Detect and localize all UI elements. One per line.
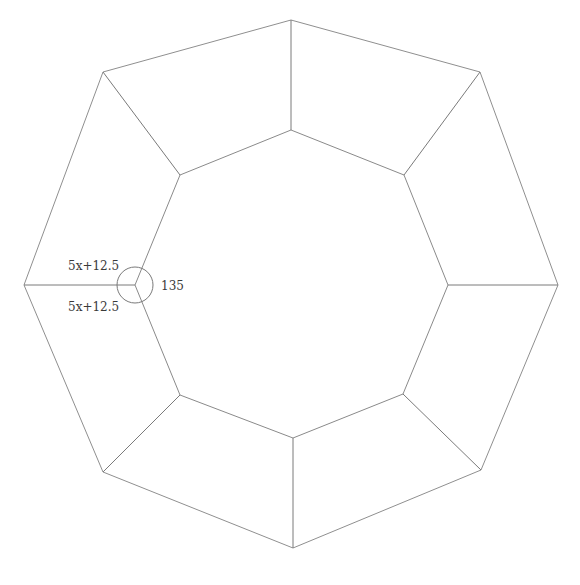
- spoke-line: [403, 394, 481, 470]
- lower-edge-label: 5x+12.5: [68, 300, 119, 314]
- upper-edge-label: 5x+12.5: [68, 259, 119, 273]
- octagon-frame-diagram: 5x+12.5 5x+12.5 135: [0, 0, 580, 585]
- connecting-spokes: [24, 20, 558, 548]
- spoke-line: [103, 72, 180, 175]
- spoke-line: [103, 395, 180, 472]
- angle-label: 135: [161, 279, 184, 293]
- spoke-line: [404, 72, 480, 175]
